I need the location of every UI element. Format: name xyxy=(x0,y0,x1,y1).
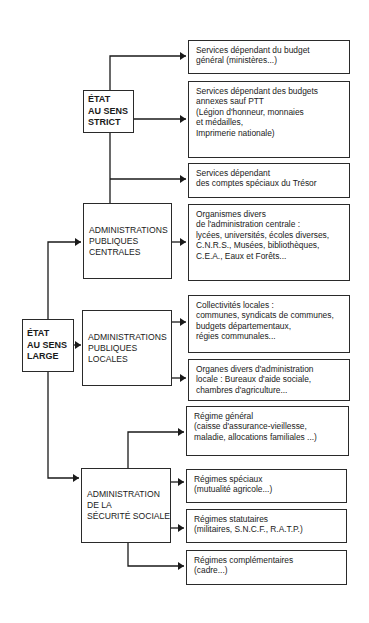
regimes-statutaires-box: Régimes statutaires (militaires, S.N.C.F… xyxy=(186,509,347,543)
box-text-line: budgets départementaux, xyxy=(196,321,349,331)
box-label-line: SÉCURITÉ SOCIALE xyxy=(87,511,170,522)
box-label-line: PUBLIQUES xyxy=(89,236,171,247)
box-label-line: DE LA xyxy=(87,500,170,511)
box-text-line: maladie, allocations familiales ...) xyxy=(194,432,348,442)
box-text-line: régies communales... xyxy=(196,331,349,341)
box-text-line: C.N.R.S., Musées, bibliothèques, xyxy=(196,240,349,250)
organismes-divers-box: Organismes divers de l'administration ce… xyxy=(188,204,350,281)
regime-general-box: Régime général (caisse d'assurance-vieil… xyxy=(186,406,349,456)
securite-sociale-box: ADMINISTRATION DE LA SÉCURITÉ SOCIALE xyxy=(81,468,171,543)
admin-locales-box: ADMINISTRATIONS PUBLIQUES LOCALES xyxy=(82,310,172,386)
box-text-line: (Légion d'honneur, monnaies xyxy=(196,107,349,117)
etat-sens-large-box: ÉTAT AU SENS LARGE xyxy=(22,319,74,372)
box-text-line: Régimes statutaires xyxy=(194,514,346,524)
box-text-line: chambres d'agriculture... xyxy=(196,385,349,395)
box-text-line: et médailles, xyxy=(196,117,349,127)
box-label-line: STRICT xyxy=(88,117,133,129)
admin-centrales-box: ADMINISTRATIONS PUBLIQUES CENTRALES xyxy=(83,203,172,279)
comptes-speciaux-box: Services dépendant des comptes spéciaux … xyxy=(188,163,350,198)
box-label-line: ADMINISTRATION xyxy=(87,489,170,500)
budgets-annexes-box: Services dépendant des budgets annexes s… xyxy=(188,81,350,158)
box-text-line: (caisse d'assurance-vieillesse, xyxy=(194,421,348,431)
box-label-line: ADMINISTRATIONS xyxy=(88,332,171,343)
box-text-line: (militaires, S.N.C.F., R.A.T.P.) xyxy=(194,524,346,534)
etat-sens-strict-box: ÉTAT AU SENS STRICT xyxy=(83,90,134,133)
box-text-line: Régimes spéciaux xyxy=(194,474,346,484)
box-label-line: ADMINISTRATIONS xyxy=(89,225,171,236)
box-text-line: de l'administration centrale : xyxy=(196,219,349,229)
box-text-line: communes, syndicats de communes, xyxy=(196,310,349,320)
box-label-line: AU SENS xyxy=(88,106,133,118)
box-text-line: lycées, universités, écoles diverses, xyxy=(196,230,349,240)
box-text-line: Collectivités locales : xyxy=(196,300,349,310)
box-label-line: LARGE xyxy=(27,351,73,363)
box-label-line: AU SENS xyxy=(27,340,73,352)
box-text-line: des comptes spéciaux du Trésor xyxy=(196,178,349,188)
box-text-line: Imprimerie nationale) xyxy=(196,128,349,138)
box-text-line: général (ministères...) xyxy=(196,55,349,65)
box-text-line: locale : Bureaux d'aide sociale, xyxy=(196,374,349,384)
box-text-line: Services dépendant xyxy=(196,168,349,178)
organes-divers-box: Organes divers d'administration locale :… xyxy=(188,359,350,401)
box-text-line: (mutualité agricole...) xyxy=(194,484,346,494)
budget-general-box: Services dépendant du budget général (mi… xyxy=(188,40,350,74)
box-text-line: Organismes divers xyxy=(196,209,349,219)
box-text-line: Services dépendant des budgets xyxy=(196,86,349,96)
box-text-line: (cadre...) xyxy=(194,565,346,575)
box-label-line: ÉTAT xyxy=(27,328,73,340)
collectivites-locales-box: Collectivités locales : communes, syndic… xyxy=(188,295,350,353)
box-text-line: Régime général xyxy=(194,411,348,421)
regimes-speciaux-box: Régimes spéciaux (mutualité agricole...) xyxy=(186,469,347,503)
regimes-complementaires-box: Régimes complémentaires (cadre...) xyxy=(186,550,347,585)
box-text-line: Régimes complémentaires xyxy=(194,555,346,565)
box-label-line: LOCALES xyxy=(88,354,171,365)
box-label-line: PUBLIQUES xyxy=(88,343,171,354)
box-label-line: ÉTAT xyxy=(88,94,133,106)
box-text-line: annexes sauf PTT xyxy=(196,96,349,106)
box-text-line: Organes divers d'administration xyxy=(196,364,349,374)
box-label-line: CENTRALES xyxy=(89,247,171,258)
box-text-line: Services dépendant du budget xyxy=(196,45,349,55)
box-text-line: C.E.A., Eaux et Forêts... xyxy=(196,251,349,261)
